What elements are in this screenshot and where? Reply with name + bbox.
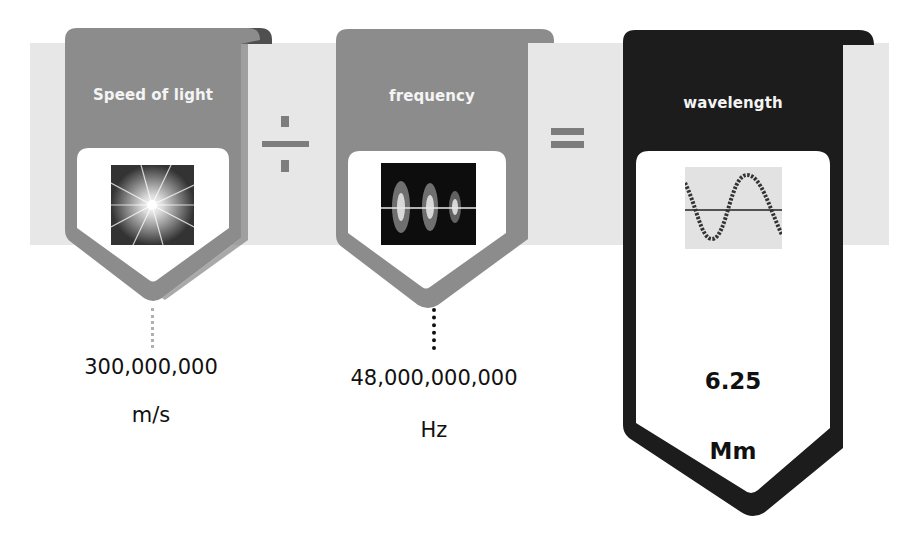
connector-dots <box>151 308 154 348</box>
connector-dots <box>432 308 436 350</box>
card-title: frequency <box>336 87 528 105</box>
result-value: 6.25 <box>623 368 843 394</box>
divide-operator-icon <box>262 116 309 172</box>
card-speed-of-light: Speed of light <box>65 28 275 303</box>
card-frequency: frequency <box>336 29 561 309</box>
equals-operator-icon <box>551 128 584 148</box>
speed-unit: m/s <box>46 403 256 427</box>
frequency-unit: Hz <box>324 418 544 442</box>
frequency-value: 48,000,000,000 <box>324 366 544 390</box>
result-unit: Mm <box>623 438 843 464</box>
waveform-image <box>381 163 476 245</box>
sine-wave-image <box>685 167 782 249</box>
speed-value: 300,000,000 <box>46 355 256 379</box>
card-wavelength: wavelength 6.25 Mm <box>623 30 878 520</box>
card-title: Speed of light <box>65 86 241 104</box>
card-title: wavelength <box>623 94 843 112</box>
starburst-light-image <box>111 165 194 245</box>
